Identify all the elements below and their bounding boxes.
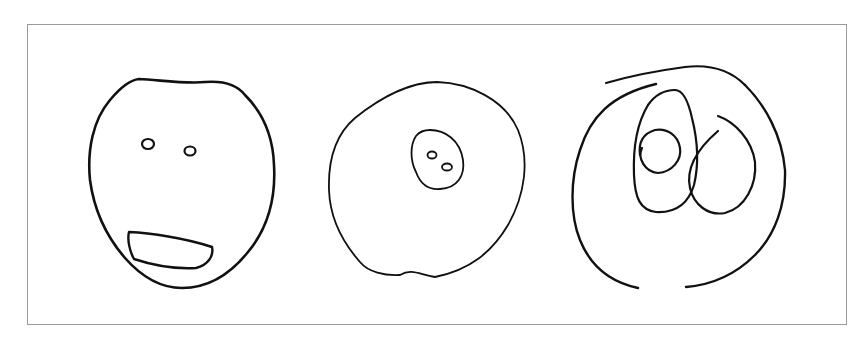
- inner-left-dot: [428, 152, 437, 159]
- left-eye: [142, 139, 154, 149]
- inner-right-dot: [442, 164, 452, 171]
- drawing-face: [89, 79, 274, 288]
- drawing-spiral: [573, 66, 786, 288]
- right-loop: [689, 116, 755, 213]
- tall-loop: [634, 90, 698, 212]
- outer-spiral-top-stroke: [606, 66, 745, 85]
- mouth: [128, 232, 212, 268]
- head-outline: [89, 79, 274, 288]
- drawing-circle: [329, 82, 525, 277]
- inner-spiral: [640, 130, 681, 173]
- right-eye: [185, 147, 196, 156]
- sketch-canvas: [0, 0, 868, 347]
- outer-circle: [329, 82, 525, 277]
- inner-oval: [412, 130, 464, 189]
